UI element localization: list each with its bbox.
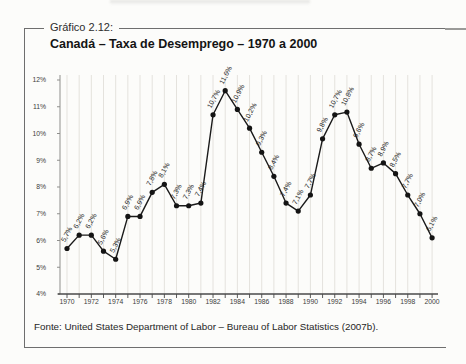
point-label: 10,2% xyxy=(242,102,258,123)
figure-number-label: Gráfico 2.12: xyxy=(44,21,119,33)
data-point xyxy=(320,136,325,141)
point-label: 9,6% xyxy=(352,121,366,138)
point-label: 7,3% xyxy=(181,183,195,200)
data-point xyxy=(283,200,288,205)
data-point xyxy=(186,203,191,208)
data-point xyxy=(381,160,386,165)
y-tick-label: 4% xyxy=(36,290,46,297)
point-label: 8,5% xyxy=(388,151,402,168)
x-tick-label: 1982 xyxy=(205,298,220,305)
data-point xyxy=(137,214,142,219)
data-point xyxy=(369,166,374,171)
x-tick-labels: 1970197219741976197819801982198419861988… xyxy=(59,298,439,305)
point-label: 11,6% xyxy=(218,65,233,85)
point-label: 7,8% xyxy=(145,169,159,186)
data-point xyxy=(210,112,215,117)
chart-title: Canadá – Taxa de Desemprego – 1970 a 200… xyxy=(50,37,317,51)
x-tick-label: 1990 xyxy=(303,298,318,305)
point-label: 10,7% xyxy=(327,88,343,109)
point-label: 5,7% xyxy=(60,226,74,243)
x-tick-label: 1984 xyxy=(230,298,245,305)
x-tick-label: 1998 xyxy=(400,298,415,305)
y-tick-label: 5% xyxy=(36,264,46,271)
scanned-book-figure: Gráfico 2.12: Canadá – Taxa de Desempreg… xyxy=(0,0,466,364)
data-point xyxy=(247,126,252,131)
data-point xyxy=(296,208,301,213)
point-label: 8,4% xyxy=(267,153,281,170)
data-point xyxy=(174,203,179,208)
data-point xyxy=(125,214,130,219)
x-tick-label: 1970 xyxy=(59,298,74,305)
point-label: 6,1% xyxy=(425,215,439,232)
data-point xyxy=(332,112,337,117)
x-tick-label: 1992 xyxy=(327,298,342,305)
data-point xyxy=(393,171,398,176)
data-point xyxy=(198,200,203,205)
y-tick-label: 9% xyxy=(36,157,46,164)
x-tick-label: 1994 xyxy=(352,298,367,305)
x-tick-label: 1986 xyxy=(254,298,269,305)
point-label: 7,4% xyxy=(194,180,208,197)
x-tick-label: 2000 xyxy=(425,298,440,305)
point-label: 6,2% xyxy=(84,212,98,229)
data-point xyxy=(356,142,361,147)
data-point xyxy=(344,110,349,115)
data-point xyxy=(64,246,69,251)
x-tick-label: 1980 xyxy=(181,298,196,305)
data-point xyxy=(417,211,422,216)
x-tick-label: 1974 xyxy=(108,298,123,305)
data-point xyxy=(113,257,118,262)
data-point xyxy=(89,233,94,238)
data-point xyxy=(271,174,276,179)
data-point xyxy=(259,150,264,155)
data-point xyxy=(405,192,410,197)
y-tick-label: 7% xyxy=(36,210,46,217)
data-point xyxy=(223,88,228,93)
x-tick-label: 1988 xyxy=(278,298,293,305)
unemployment-line-chart: 4%5%6%7%8%9%10%11%12%1970197219741976197… xyxy=(0,0,466,364)
data-point xyxy=(308,192,313,197)
y-tick-label: 11% xyxy=(33,103,46,110)
point-label: 7,4% xyxy=(279,180,293,197)
data-point xyxy=(430,235,435,240)
point-label: 10,7% xyxy=(206,88,222,109)
point-label: 7,7% xyxy=(303,172,317,189)
point-label: 10,9% xyxy=(230,83,246,104)
point-label: 10,8% xyxy=(340,86,356,107)
point-label: 7,0% xyxy=(413,191,427,208)
point-label: 9,3% xyxy=(254,129,268,146)
x-tick-label: 1978 xyxy=(157,298,172,305)
x-tick-label: 1972 xyxy=(84,298,99,305)
point-label: 7,7% xyxy=(400,172,414,189)
point-label: 5,6% xyxy=(96,228,110,245)
x-tick-label: 1976 xyxy=(132,298,147,305)
point-label: 7,1% xyxy=(291,188,305,205)
data-point xyxy=(235,107,240,112)
y-tick-label: 12% xyxy=(32,76,46,83)
y-tick-labels: 4%5%6%7%8%9%10%11%12% xyxy=(32,76,46,297)
y-tick-label: 6% xyxy=(36,237,46,244)
data-point xyxy=(101,249,106,254)
x-tick-label: 1996 xyxy=(376,298,391,305)
data-point xyxy=(77,233,82,238)
source-note: Fonte: United States Department of Labor… xyxy=(34,321,378,332)
y-tick-label: 10% xyxy=(32,130,46,137)
data-point xyxy=(162,182,167,187)
point-label: 8,9% xyxy=(376,140,390,157)
y-axis xyxy=(57,75,60,294)
y-tick-label: 8% xyxy=(36,183,46,190)
data-point xyxy=(150,190,155,195)
point-label: 8,1% xyxy=(157,161,171,178)
